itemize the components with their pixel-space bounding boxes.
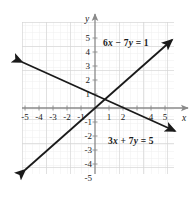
y-tick-label: -5 bbox=[85, 173, 93, 183]
x-tick-label: -4 bbox=[35, 112, 43, 122]
y-tick-label: 2 bbox=[86, 75, 91, 85]
y-tick-label: 5 bbox=[86, 33, 91, 43]
y-tick-label: -3 bbox=[85, 145, 93, 155]
y-axis-label: y bbox=[84, 14, 90, 24]
x-tick-label: -3 bbox=[49, 112, 57, 122]
coordinate-plane: -5 -4 -3 -2 -1 1 2 4 5 5 4 3 2 1 -1 -2 -… bbox=[0, 0, 196, 198]
graph-figure: -5 -4 -3 -2 -1 1 2 4 5 5 4 3 2 1 -1 -2 -… bbox=[0, 0, 196, 198]
eq2-var-y: y bbox=[134, 136, 138, 146]
eq2-constant: 5 bbox=[149, 136, 154, 146]
eq1-equals: = bbox=[136, 38, 142, 48]
eq1-operator: − bbox=[115, 38, 121, 48]
eq1-var-x: x bbox=[108, 38, 113, 48]
x-tick-label: -5 bbox=[21, 112, 29, 122]
eq2-equals: = bbox=[141, 136, 147, 146]
eq2-var-x: x bbox=[113, 136, 118, 146]
x-tick-label: 5 bbox=[163, 112, 168, 122]
x-axis-label: x bbox=[181, 113, 187, 123]
x-tick-label: 1 bbox=[107, 112, 112, 122]
eq2-operator: + bbox=[120, 136, 126, 146]
y-tick-label: -2 bbox=[85, 131, 93, 141]
x-tick-label: -2 bbox=[63, 112, 71, 122]
y-tick-label: -4 bbox=[85, 159, 93, 169]
eq1-constant: 1 bbox=[144, 38, 149, 48]
y-tick-label: -1 bbox=[85, 117, 93, 127]
plot-background bbox=[22, 22, 174, 174]
eq1-var-y: y bbox=[129, 38, 133, 48]
y-tick-label: 4 bbox=[86, 47, 91, 57]
equation-label-one: 6x − 7y = 1 bbox=[103, 38, 149, 48]
equation-label-two: 3x + 7y = 5 bbox=[108, 136, 154, 146]
y-tick-label: 3 bbox=[86, 61, 91, 71]
x-tick-label: 2 bbox=[121, 112, 126, 122]
